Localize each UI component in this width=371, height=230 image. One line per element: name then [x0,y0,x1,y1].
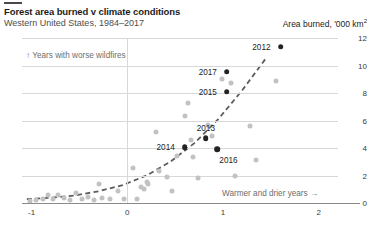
data-point [232,174,237,179]
annotation-warmer-drier: Warmer and drier years → [222,189,318,198]
data-point-2014 [182,145,188,151]
data-point [228,81,233,86]
annotation-worse-wildfires: ↑ Years with worse wildfires [26,51,126,60]
y-tick-label-0: 0 [351,199,367,208]
y-tick-label-6: 6 [351,116,367,125]
data-point [131,165,136,170]
data-point [56,192,61,197]
y-axis-title-text: Area burned, '000 km [283,19,364,29]
data-point [115,189,120,194]
x-tick-label-0: 0 [125,208,129,217]
data-point [182,113,187,118]
y-tick-label-12: 12 [351,34,367,43]
data-point-2013 [203,136,209,142]
data-point [100,195,105,200]
data-point [80,196,85,201]
gridline-y-2 [22,176,338,177]
data-point [247,124,252,129]
x-axis-line [22,203,360,204]
data-point [253,158,258,163]
data-point-2012 [278,44,284,50]
data-point [191,154,196,159]
data-point [73,191,78,196]
y-tick-label-10: 10 [351,61,367,70]
scatter-plot-area [22,38,338,203]
data-point [154,130,159,135]
data-point [50,197,55,202]
data-point [188,137,193,142]
data-point [170,188,175,193]
data-point [185,101,190,106]
y-tick-label-2: 2 [351,171,367,180]
y-tick-label-4: 4 [351,144,367,153]
data-point [86,194,91,199]
x-tick-label-1: 1 [221,208,225,217]
top-rule [4,2,22,4]
data-point [196,175,201,180]
data-point-2015 [224,89,230,95]
data-point [62,196,67,201]
data-point-label-2013: 2013 [166,124,246,133]
data-point-2017 [224,69,230,75]
y-axis-title: Area burned, '000 km2 [283,18,367,29]
y-axis-unit-exponent: 2 [364,18,367,24]
x-tick-label-2: 2 [317,208,321,217]
gridline-y-6 [22,121,338,122]
y-tick-label-8: 8 [351,89,367,98]
data-point [121,197,126,202]
data-point [209,134,214,139]
data-point [96,182,101,187]
gridline-x-0 [127,38,128,203]
data-point [67,197,72,202]
data-point [141,186,146,191]
data-point [175,153,180,158]
data-point-2016 [215,147,221,153]
data-point [134,196,139,201]
data-point [156,168,161,173]
data-point-label-2015: 2015 [0,87,217,96]
data-point [34,198,39,203]
data-point-label-2016: 2016 [219,156,237,165]
x-tick-label--1: -1 [28,208,35,217]
data-point [108,196,113,201]
data-point [146,182,151,187]
data-point-label-2014: 2014 [0,143,175,152]
data-point [220,76,225,81]
page-subtitle: Western United States, 1984–2017 [4,18,144,28]
page-title: Forest area burned v climate conditions [4,6,180,17]
data-point [41,196,46,201]
data-point-label-2017: 2017 [0,67,217,76]
data-point [164,174,169,179]
gridline-y-12 [22,38,338,39]
data-point [273,78,278,83]
